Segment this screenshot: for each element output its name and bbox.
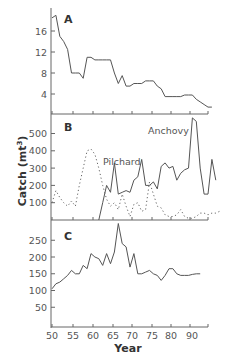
x-tick-label: 60 — [87, 330, 99, 341]
y-tick-label: 300 — [29, 163, 47, 174]
y-tick-label: 12 — [35, 47, 47, 58]
x-tick-label: 70 — [126, 330, 138, 341]
y-tick-label: 150 — [29, 268, 47, 279]
x-tick-label: 80 — [165, 330, 177, 341]
x-tick-label: 55 — [67, 330, 79, 341]
x-tick-label: 65 — [107, 330, 119, 341]
y-tick-label: 400 — [29, 145, 47, 156]
y-tick-label: 200 — [29, 252, 47, 263]
catch-chart: 5055606570758090 48121610020030040050050… — [0, 0, 225, 363]
anchovy-label: Anchovy — [148, 125, 189, 136]
series-a-line — [52, 15, 212, 107]
x-axis-title: Year — [113, 342, 142, 355]
y-tick-label: 4 — [41, 89, 47, 100]
y-tick-label: 200 — [29, 180, 47, 191]
panel-a-label: A — [64, 13, 73, 26]
pilchard-label: Pilchard — [103, 156, 141, 167]
x-ticks: 5055606570758090 — [46, 111, 208, 341]
panel-b-label: B — [64, 121, 72, 134]
y-tick-label: 250 — [29, 235, 47, 246]
series-c-line — [52, 224, 200, 289]
x-tick-label: 90 — [186, 330, 198, 341]
x-tick-label: 50 — [46, 330, 58, 341]
y-tick-label: 500 — [29, 128, 47, 139]
panel-c-label: C — [64, 230, 72, 243]
y-tick-label: 100 — [29, 285, 47, 296]
x-tick-label: 75 — [146, 330, 158, 341]
y-tick-label: 16 — [35, 26, 47, 37]
y-tick-label: 100 — [29, 197, 47, 208]
y-tick-label: 50 — [35, 302, 47, 313]
y-axis-title: Catch (mt3) — [16, 136, 29, 207]
y-tick-label: 8 — [41, 68, 47, 79]
